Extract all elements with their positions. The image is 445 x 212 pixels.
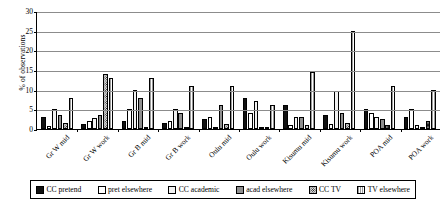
y-axis-tick [34, 110, 37, 111]
bar [98, 115, 103, 129]
y-axis-tick [34, 91, 37, 92]
x-axis-tick-labels: Gr W midGr W workGr B midGr B workOulu m… [36, 131, 440, 173]
bar [224, 124, 229, 130]
legend-item[interactable]: CC academic [168, 185, 219, 194]
chart-figure: % of observations 051015202530 Gr W midG… [0, 0, 445, 212]
bar [162, 123, 167, 129]
legend-label: CC TV [319, 185, 341, 194]
y-axis-tick-label: 30 [26, 8, 34, 16]
x-axis-tick-label: Gr W work [82, 133, 112, 163]
x-axis-tick-label: POA work [406, 133, 435, 162]
bar [81, 124, 86, 129]
bar [294, 117, 299, 129]
legend-item[interactable]: acad elsewhere [236, 185, 293, 194]
bar [248, 113, 253, 129]
legend-item[interactable]: CC pretend [36, 185, 81, 194]
bar [270, 105, 275, 129]
bar [138, 98, 143, 129]
bar [299, 117, 304, 129]
y-axis-tick [34, 12, 37, 13]
gridline [37, 71, 440, 72]
legend-swatch [36, 186, 44, 194]
bar [305, 125, 310, 129]
legend-label: CC academic [179, 185, 220, 194]
legend-label: TV elsewhere [368, 185, 410, 194]
bar [63, 123, 68, 129]
bar [310, 72, 315, 129]
bar [431, 90, 436, 129]
bar [178, 113, 183, 129]
bar [69, 98, 74, 129]
bar [364, 109, 369, 129]
x-axis-tick-label: Gr B mid [126, 133, 152, 159]
bar [219, 105, 224, 129]
legend-item[interactable]: CC TV [309, 185, 342, 194]
bar [87, 121, 92, 129]
y-axis-tick-label: 15 [26, 67, 34, 75]
y-axis-tick [34, 71, 37, 72]
legend-label: CC pretend [47, 185, 82, 194]
legend-swatch [98, 186, 106, 194]
y-axis-tick-label: 25 [26, 28, 34, 36]
bar [213, 127, 218, 129]
bar [420, 127, 425, 129]
chart-legend: CC pretendpret elsewhereCC academicacad … [30, 180, 416, 199]
bar [202, 119, 207, 129]
legend-label: pret elsewhere [108, 185, 152, 194]
bar [173, 109, 178, 129]
bar [351, 31, 356, 129]
bar [323, 115, 328, 129]
y-axis-tick [34, 51, 37, 52]
bar [109, 78, 114, 129]
bar [345, 123, 350, 129]
bar [103, 74, 108, 129]
bar [208, 117, 213, 129]
bar [288, 125, 293, 129]
bar [122, 121, 127, 129]
plot-area [36, 12, 440, 130]
bar [265, 127, 270, 129]
gridline [37, 32, 440, 33]
bar [149, 78, 154, 129]
x-axis-tick-label: POA mid [368, 133, 394, 159]
plot-area-wrapper: 051015202530 [36, 12, 440, 130]
bar [404, 117, 409, 129]
x-axis-tick-label: Oulu work [244, 133, 273, 162]
bar [52, 109, 57, 129]
legend-swatch [357, 186, 365, 194]
bar [391, 86, 396, 129]
bar [254, 101, 259, 129]
bar [380, 119, 385, 129]
bar [230, 86, 235, 129]
bar [283, 105, 288, 129]
bar [133, 90, 138, 129]
y-axis-tick [34, 32, 37, 33]
bar [127, 109, 132, 129]
gridline [37, 12, 440, 13]
x-axis-tick-label: Gr W mid [44, 133, 72, 161]
y-axis-tick-label: 0 [29, 126, 33, 134]
x-axis-tick-label: Kisumu mid [281, 133, 314, 166]
x-axis-tick-label: Gr B work [164, 133, 193, 162]
bar [415, 125, 420, 129]
bar [92, 118, 97, 129]
bar [329, 124, 334, 129]
gridline [37, 51, 440, 52]
legend-item[interactable]: TV elsewhere [357, 185, 410, 194]
y-axis-tick-label: 20 [26, 47, 34, 55]
gridline [37, 91, 440, 92]
y-axis-tick-labels: 051015202530 [16, 12, 33, 130]
legend-swatch [309, 186, 317, 194]
bar [184, 127, 189, 129]
bar [58, 115, 63, 129]
legend-item[interactable]: pret elsewhere [98, 185, 153, 194]
bar [340, 113, 345, 129]
gridline [37, 110, 440, 111]
bar [47, 126, 52, 129]
bar [409, 109, 414, 129]
legend-label: acad elsewhere [246, 185, 292, 194]
x-axis-tick-label: Oulu mid [207, 133, 234, 160]
x-axis-tick-label: Kisumu work [319, 133, 354, 168]
bar [385, 125, 390, 129]
bar [41, 117, 46, 129]
